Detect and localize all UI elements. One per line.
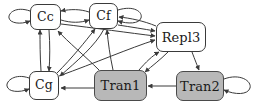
node-cg[interactable]: Cg <box>29 71 59 100</box>
node-repl3-label: Repl3 <box>162 31 201 44</box>
edge-repl3-to-tran2 <box>192 52 199 70</box>
edge-repl3-to-tran1 <box>145 52 168 72</box>
node-cf[interactable]: Cf <box>89 3 118 29</box>
edge-tran1-to-cf <box>107 30 113 70</box>
edge-cc-to-cf <box>61 20 89 22</box>
edge-tran1-to-cc <box>58 31 99 70</box>
edge-cf-to-cc <box>61 10 89 12</box>
edge-cc-to-cg <box>49 30 50 71</box>
node-cc[interactable]: Cc <box>30 4 61 30</box>
self-loop-tran2 <box>224 77 250 94</box>
self-loop-cg <box>7 76 29 91</box>
self-loop-cf <box>118 8 141 23</box>
node-cc-label: Cc <box>37 11 54 24</box>
node-tran1[interactable]: Tran1 <box>94 70 147 101</box>
node-tran2-label: Tran2 <box>180 80 220 93</box>
node-tran1-label: Tran1 <box>101 79 141 92</box>
node-cg-label: Cg <box>35 79 53 92</box>
edge-cg-to-cc <box>40 30 41 71</box>
node-cf-label: Cf <box>96 10 110 23</box>
edge-cf-to-repl3 <box>118 25 155 31</box>
node-repl3[interactable]: Repl3 <box>156 22 206 52</box>
self-loop-cc <box>9 9 30 23</box>
graph-diagram: Cc Cf Repl3 Cg Tran1 Tran2 <box>0 0 257 108</box>
node-tran2[interactable]: Tran2 <box>176 71 224 101</box>
edge-tran1-to-repl3 <box>139 52 159 70</box>
